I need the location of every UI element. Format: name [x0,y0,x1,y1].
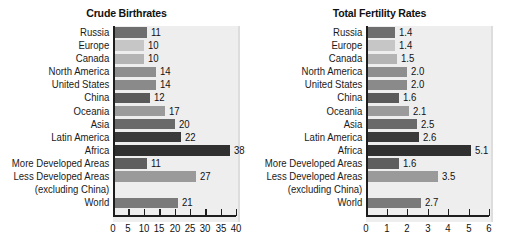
category-label: Asia [261,118,366,131]
category-label: Asia [8,118,113,131]
bar-track: 10 [113,39,253,52]
x-axis-tick-label: 2 [404,222,409,236]
bar-track: 1.6 [366,91,506,104]
bar-row: North America14 [0,65,253,78]
bar-value-label: 38 [234,144,245,157]
bar-value-label: 21 [182,196,193,209]
bar [113,119,175,129]
bar [113,171,196,181]
x-axis-tick-labels: 0510152025303540 [0,222,253,238]
category-label: (excluding China) [8,183,113,196]
x-axis-tick-label: 5 [466,222,471,236]
category-label: Less Developed Areas [8,170,113,183]
bar-row: North America2.0 [253,65,506,78]
category-label: Africa [261,144,366,157]
category-label: World [261,196,366,209]
bar-row: Asia2.5 [253,118,506,131]
bar-row: World2.7 [253,196,506,209]
bar [366,119,417,129]
category-label: Europe [261,39,366,52]
bar-row: Latin America22 [0,131,253,144]
x-axis-tick [236,209,237,216]
bar [113,145,230,155]
category-label: Oceania [261,105,366,118]
bar-track: 3.5 [366,170,506,183]
chart-panel-total-fertility-rates: Total Fertility Rates Russia1.4Europe1.4… [253,0,506,251]
bar-row: United States14 [0,78,253,91]
category-label: Less Developed Areas [261,170,366,183]
bar [113,67,156,77]
bar-value-label: 11 [151,26,161,39]
bar [366,171,438,181]
x-axis-tick-label: 0 [363,222,368,236]
bar [366,106,409,116]
bar [113,106,165,116]
x-axis-tick [113,209,114,216]
category-label: China [261,91,366,104]
x-axis-tick-label: 35 [215,222,226,236]
bar [366,27,395,37]
y-axis-line [113,26,115,216]
category-label: North America [261,65,366,78]
bar-row: Europe10 [0,39,253,52]
bar-row: China12 [0,91,253,104]
x-axis-tick-label: 40 [231,222,242,236]
category-label: Canada [8,52,113,65]
bar [113,93,150,103]
bar-value-label: 2.7 [425,196,438,209]
category-label: North America [8,65,113,78]
x-axis-tick-label: 4 [445,222,450,236]
bar-value-label: 10 [148,52,159,65]
bar-row: (excluding China) [0,183,253,196]
x-axis-tick [428,209,429,216]
x-axis-tick-label: 6 [486,222,491,236]
bar-value-label: 12 [154,91,165,104]
bar-track [366,183,506,196]
bar-track: 38 [113,144,253,157]
x-axis-tick [175,209,176,216]
bar-track: 17 [113,105,253,118]
x-axis-tick-label: 5 [126,222,131,236]
bar-value-label: 27 [200,170,211,183]
bar-value-label: 11 [151,157,161,170]
chart-figure: Crude Birthrates Russia11Europe10Canada1… [0,0,506,251]
bar-row: Russia1.4 [253,26,506,39]
x-axis-tick [469,209,470,216]
bar-value-label: 1.4 [399,26,412,39]
x-axis-tick [221,209,222,216]
bar-track: 2.0 [366,78,506,91]
bar-row: Oceania17 [0,105,253,118]
x-axis-tick [489,209,490,216]
x-axis-tick [128,209,129,216]
bar-track: 2.6 [366,131,506,144]
bar-value-label: 14 [160,78,171,91]
bar-row: (excluding China) [253,183,506,196]
bar-row: More Developed Areas1.6 [253,157,506,170]
bar-row: Less Developed Areas3.5 [253,170,506,183]
bar-track: 20 [113,118,253,131]
category-label: (excluding China) [261,183,366,196]
bar-value-label: 5.1 [475,144,488,157]
bar-track: 11 [113,26,253,39]
category-label: United States [8,78,113,91]
bar [113,132,181,142]
bar-value-label: 2.0 [411,78,424,91]
category-label: More Developed Areas [8,157,113,170]
chart-panel-crude-birthrates: Crude Birthrates Russia11Europe10Canada1… [0,0,253,251]
bar-value-label: 1.5 [401,52,414,65]
bar-row: More Developed Areas11 [0,157,253,170]
category-label: Africa [8,144,113,157]
category-label: Oceania [8,105,113,118]
bar-track: 1.5 [366,52,506,65]
bar-value-label: 1.6 [403,91,416,104]
bar-track: 5.1 [366,144,506,157]
x-axis-tick-label: 30 [200,222,211,236]
bar-row: Oceania2.1 [253,105,506,118]
bar-row: Asia20 [0,118,253,131]
bar-track: 1.4 [366,26,506,39]
x-axis-tick [190,209,191,216]
x-axis-tick-label: 1 [384,222,389,236]
bar-track: 27 [113,170,253,183]
bar-value-label: 1.6 [403,157,416,170]
bar [113,198,178,208]
